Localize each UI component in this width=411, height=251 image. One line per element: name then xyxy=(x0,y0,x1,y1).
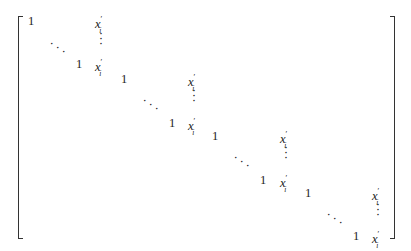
block-4-bottom-one: 1 xyxy=(353,229,359,243)
block-1-bottom-one: 1 xyxy=(76,57,82,71)
vdots: ··· xyxy=(283,146,289,161)
block-2-bottom-x-prime: x′i xyxy=(188,116,197,139)
block-1-bottom-x-prime: x′i xyxy=(95,57,104,80)
block-1-top-one: 1 xyxy=(28,14,34,28)
vdots: ··· xyxy=(98,32,104,47)
ddots: ··· xyxy=(50,38,70,54)
block-4-bottom-x-prime: x′i xyxy=(372,229,381,251)
block-4-top-one: 1 xyxy=(305,186,311,200)
vdots: ··· xyxy=(191,89,197,104)
block-2-top-one: 1 xyxy=(121,72,127,86)
right-bracket xyxy=(390,16,395,239)
ddots: ··· xyxy=(143,95,163,111)
block-3-bottom-one: 1 xyxy=(260,173,266,187)
vdots: ··· xyxy=(375,203,381,218)
left-bracket xyxy=(18,16,23,239)
ddots: ··· xyxy=(327,209,347,225)
block-3-top-one: 1 xyxy=(212,129,218,143)
block-3-bottom-x-prime: x′i xyxy=(280,173,289,196)
block-2-bottom-one: 1 xyxy=(169,116,175,130)
ddots: ··· xyxy=(234,152,254,168)
